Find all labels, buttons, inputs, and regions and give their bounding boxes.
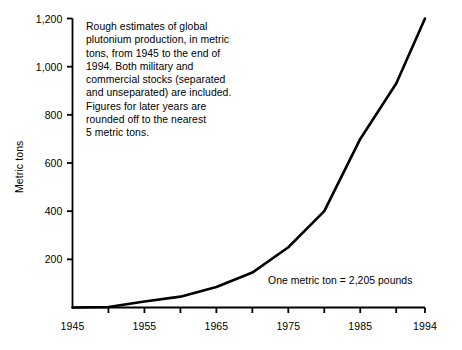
y-axis-tick-label: 400 <box>19 206 63 217</box>
chart-description-text: Rough estimates of globalplutonium produ… <box>86 20 254 140</box>
y-axis-tick-label: 1,000 <box>19 62 63 73</box>
y-axis-tick-label: 600 <box>19 158 63 169</box>
description-line: and unseparated) are included. <box>86 86 254 99</box>
description-line: 5 metric tons. <box>86 126 254 139</box>
description-line: commercial stocks (separated <box>86 73 254 86</box>
y-axis-tick-label: 1,200 <box>19 14 63 25</box>
x-axis-tick-label: 1965 <box>186 321 246 332</box>
chart-footnote-text: One metric ton = 2,205 pounds <box>268 276 412 286</box>
x-axis-tick-label: 1985 <box>330 321 390 332</box>
x-axis-tick-label: 1955 <box>114 321 174 332</box>
plutonium-production-chart: Metric tons 1,2001,000800600400200 19451… <box>0 0 462 350</box>
y-axis-tick-label: 800 <box>19 110 63 121</box>
x-axis-tick-label: 1945 <box>43 321 103 332</box>
description-line: 1994. Both military and <box>86 60 254 73</box>
x-axis-tick-label: 1994 <box>395 321 455 332</box>
description-line: plutonium production, in metric <box>86 33 254 46</box>
description-line: rounded off to the nearest <box>86 113 254 126</box>
y-axis-tick-label: 200 <box>19 254 63 265</box>
description-line: Figures for later years are <box>86 100 254 113</box>
x-axis-tick-label: 1975 <box>258 321 318 332</box>
description-line: tons, from 1945 to the end of <box>86 47 254 60</box>
description-line: Rough estimates of global <box>86 20 254 33</box>
